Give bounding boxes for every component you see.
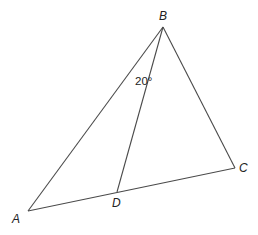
segment-ac bbox=[28, 168, 235, 211]
segment-bc bbox=[163, 27, 235, 168]
label-point-a: A bbox=[11, 212, 20, 226]
angle-label-abd: 20° bbox=[135, 75, 152, 87]
segment-bd bbox=[117, 27, 163, 192]
label-point-b: B bbox=[159, 9, 167, 23]
segment-ab bbox=[28, 27, 163, 211]
triangle-diagram: B A C D 20° bbox=[0, 0, 258, 235]
label-point-d: D bbox=[112, 196, 121, 210]
label-point-c: C bbox=[239, 161, 248, 175]
